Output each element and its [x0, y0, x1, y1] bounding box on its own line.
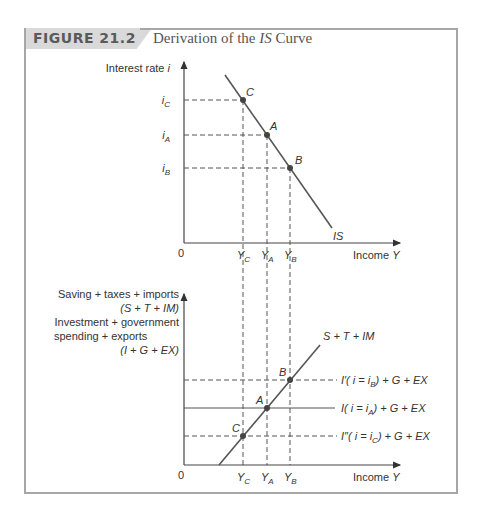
- top-x-label: Income Y: [353, 249, 400, 261]
- point-b-top: [287, 165, 293, 171]
- label-a-bottom: A: [255, 394, 263, 406]
- i-prime-label: I′( i = iB) + G + EX: [341, 374, 428, 389]
- tick-yb-top: YB: [284, 249, 297, 264]
- tick-ic: iC: [162, 94, 170, 109]
- stim-curve: [219, 345, 320, 465]
- bottom-y-label-5: (I + G + EX): [120, 344, 179, 356]
- tick-ya-top: YA: [261, 249, 274, 264]
- top-origin: 0: [178, 247, 184, 259]
- stim-label: S + T + IM: [323, 330, 375, 342]
- bottom-y-label-3: Investment + government: [55, 316, 179, 328]
- tick-ia: iA: [162, 129, 170, 144]
- bottom-x-label: Income Y: [353, 471, 400, 483]
- bottom-y-label-2: (S + T + IM): [120, 302, 179, 314]
- is-label: IS: [333, 230, 344, 242]
- tick-yc-top: YC: [237, 249, 250, 264]
- tick-ib: iB: [162, 162, 170, 177]
- i-double-prime-label: I″( i = iC) + G + EX: [341, 430, 431, 445]
- i-label: I( i = iA) + G + EX: [341, 402, 426, 417]
- point-b-bottom: [287, 377, 293, 383]
- bottom-y-label-1: Saving + taxes + imports: [58, 288, 180, 300]
- label-b-bottom: B: [279, 366, 286, 378]
- label-a-top: A: [269, 120, 277, 132]
- label-b-top: B: [295, 154, 302, 166]
- top-y-label: Interest rate i: [106, 62, 171, 74]
- label-c-top: C: [246, 86, 254, 98]
- tick-yb-bottom: YB: [284, 471, 297, 486]
- point-c-bottom: [240, 433, 246, 439]
- bottom-origin: 0: [178, 469, 184, 481]
- tick-ya-bottom: YA: [261, 471, 274, 486]
- point-a-bottom: [264, 405, 270, 411]
- charts-svg: C A B IS Interest rate i iC iA iB 0 YC Y…: [0, 0, 481, 521]
- tick-yc-bottom: YC: [237, 471, 250, 486]
- bottom-y-label-4: spending + exports: [54, 330, 148, 342]
- point-a-top: [264, 132, 270, 138]
- saving-investment-chart: B A C S + T + IM I′( i = iB) + G + EX I(…: [54, 288, 431, 486]
- label-c-bottom: C: [232, 422, 240, 434]
